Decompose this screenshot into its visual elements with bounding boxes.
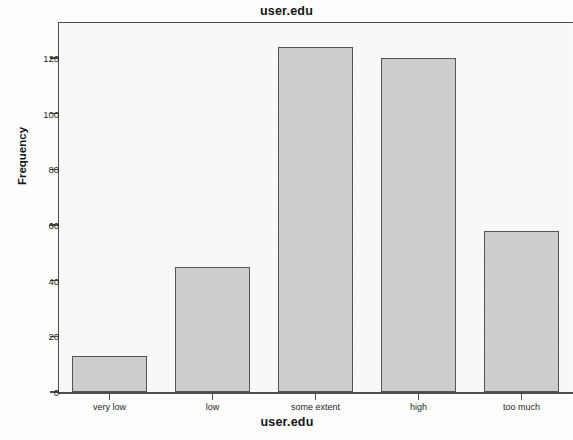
y-axis-tick-label: 100 [13, 108, 59, 119]
y-axis-tick-label: 0 [13, 387, 59, 398]
bar [278, 47, 353, 392]
x-axis-tick [521, 393, 522, 400]
bar [381, 58, 456, 392]
x-axis-title: user.edu [57, 415, 517, 429]
bar [484, 231, 559, 392]
x-axis-tick-label: low [206, 402, 220, 412]
x-axis-tick-label: too much [503, 402, 540, 412]
x-axis-tick-label: high [410, 402, 427, 412]
chart-title: user.edu [0, 4, 573, 18]
bar [72, 356, 147, 392]
y-axis-tick-label: 60 [13, 220, 59, 231]
x-axis-tick [418, 393, 419, 400]
bar [175, 267, 250, 392]
y-axis-tick-label: 40 [13, 275, 59, 286]
x-axis-tick-label: some extent [291, 402, 340, 412]
chart-figure: user.edu Frequency 020406080100120 very … [0, 0, 573, 440]
y-axis-tick-label: 120 [13, 53, 59, 64]
x-axis-tick [109, 393, 110, 400]
y-axis-tick-label: 80 [13, 164, 59, 175]
x-axis-tick [315, 393, 316, 400]
x-axis-tick-label: very low [93, 402, 126, 412]
x-axis-tick [212, 393, 213, 400]
y-axis-tick-label: 20 [13, 331, 59, 342]
